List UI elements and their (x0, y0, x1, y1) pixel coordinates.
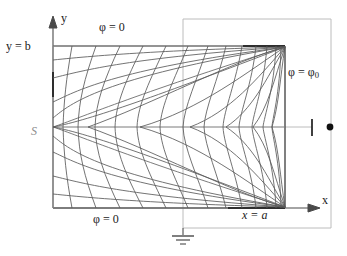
label-axis-x: x (322, 194, 328, 206)
ground-icon (172, 228, 194, 244)
field-map-figure (0, 0, 347, 256)
label-phi-right-subscript: 0 (315, 70, 319, 80)
label-phi-bottom: φ = 0 (93, 213, 119, 225)
terminal-dot-icon (312, 119, 333, 136)
field-line-d7 (88, 127, 285, 207)
label-phi-top: φ = 0 (99, 21, 125, 33)
label-phi-right-prefix: φ = φ (288, 65, 315, 79)
arrow-up-icon (49, 16, 57, 28)
field-line-u7 (88, 47, 285, 127)
label-saddle-point-s: S (31, 125, 37, 137)
label-phi-right: φ = φ0 (288, 66, 319, 80)
arrow-right-icon (308, 204, 320, 212)
label-y-equals-b: y = b (6, 40, 31, 52)
field-line-u10 (226, 47, 285, 127)
label-axis-y: y (61, 12, 67, 24)
label-x-equals-a: x = a (242, 209, 267, 221)
field-line-d10 (226, 127, 285, 207)
